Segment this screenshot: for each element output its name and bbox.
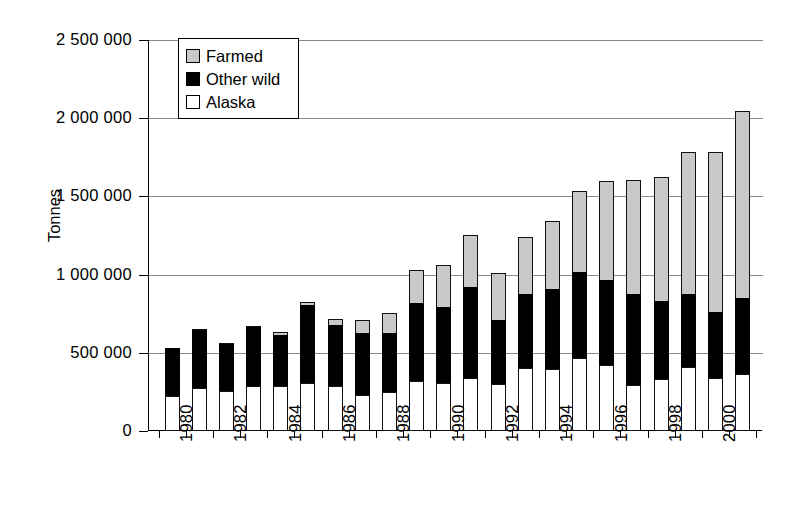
bar-segment-farmed: [735, 111, 750, 299]
bar-segment-wild: [491, 320, 506, 385]
bar-segment-wild: [681, 294, 696, 368]
y-axis-tick-mark: [139, 275, 148, 276]
x-axis-tick-label: 1984: [286, 404, 305, 442]
bar-segment-wild: [300, 305, 315, 385]
y-axis-tick-label: 1 500 000: [0, 186, 132, 205]
y-axis-tick-mark: [139, 118, 148, 119]
x-axis-tick-mark: [702, 431, 703, 438]
gridline: [149, 353, 763, 354]
bar-1991: [463, 235, 478, 430]
x-axis-tick-label: 1980: [177, 404, 196, 442]
x-axis-tick-label: 1992: [503, 404, 522, 442]
legend-swatch-alaska-icon: [186, 95, 200, 109]
gridline: [149, 196, 763, 197]
x-axis-tick-mark: [159, 431, 160, 438]
y-axis-tick-label: 2 500 000: [0, 30, 132, 49]
bar-2000: [708, 152, 723, 431]
legend-label: Farmed: [206, 48, 263, 64]
gridline: [149, 275, 763, 276]
x-axis-tick-mark: [322, 431, 323, 438]
bar-2001: [735, 111, 750, 430]
x-axis-tick-label: 1990: [449, 404, 468, 442]
bar-segment-wild: [273, 335, 288, 387]
x-axis-tick-label: 1996: [612, 404, 631, 442]
bar-1994: [545, 221, 560, 430]
y-axis-title: Tonnes: [45, 156, 64, 276]
bar-segment-wild: [328, 325, 343, 388]
x-axis-tick-mark: [376, 431, 377, 438]
bar-segment-farmed: [382, 313, 397, 335]
bar-segment-wild: [165, 348, 180, 397]
legend-label: Alaska: [206, 94, 256, 110]
legend-swatch-wild-icon: [186, 72, 200, 86]
bar-segment-wild: [219, 344, 234, 392]
y-axis-tick-label: 500 000: [0, 343, 132, 362]
x-axis-tick-label: 1982: [231, 404, 250, 442]
bar-segment-wild: [708, 312, 723, 378]
bar-1999: [681, 152, 696, 430]
x-axis-tick-label: 1998: [666, 404, 685, 442]
x-axis-tick-label: 1994: [557, 404, 576, 442]
x-axis-tick-label: 1988: [394, 404, 413, 442]
bar-segment-farmed: [681, 152, 696, 294]
y-axis-tick-mark: [139, 40, 148, 41]
x-axis-tick-mark: [430, 431, 431, 438]
bar-segment-wild: [436, 307, 451, 384]
bar-segment-wild: [572, 272, 587, 359]
bar-segment-farmed: [409, 270, 424, 304]
y-axis-tick-label: 2 000 000: [0, 108, 132, 127]
bar-segment-farmed: [599, 181, 614, 280]
bar-segment-wild: [409, 303, 424, 382]
bar-1998: [654, 177, 669, 430]
x-axis-tick-mark: [267, 431, 268, 438]
bar-segment-wild: [246, 327, 261, 387]
bar-1995: [572, 191, 587, 430]
bar-segment-wild: [545, 289, 560, 370]
bar-segment-farmed: [463, 235, 478, 287]
bar-segment-wild: [192, 330, 207, 389]
bar-segment-farmed: [355, 320, 370, 333]
bar-1996: [599, 181, 614, 430]
x-axis-tick-mark: [485, 431, 486, 438]
x-axis-tick-mark: [213, 431, 214, 438]
y-axis-tick-label: 1 000 000: [0, 265, 132, 284]
chart-legend: FarmedOther wildAlaska: [178, 38, 299, 119]
y-axis-tick-label: 0: [0, 421, 132, 440]
x-axis-tick-mark: [648, 431, 649, 438]
bar-1997: [626, 180, 641, 430]
x-axis-tick-label: 1986: [340, 404, 359, 442]
bar-1993: [518, 237, 533, 430]
x-axis-tick-label: 2000: [720, 404, 739, 442]
bar-segment-farmed: [654, 177, 669, 302]
bar-segment-wild: [735, 298, 750, 375]
bar-segment-wild: [626, 294, 641, 385]
y-axis-tick-mark: [139, 353, 148, 354]
bar-segment-wild: [463, 287, 478, 379]
bar-segment-farmed: [708, 152, 723, 314]
bar-segment-wild: [518, 294, 533, 370]
bar-segment-farmed: [626, 180, 641, 296]
bar-segment-farmed: [436, 265, 451, 308]
bar-segment-farmed: [545, 221, 560, 290]
legend-label: Other wild: [206, 71, 280, 87]
bar-segment-farmed: [572, 191, 587, 274]
legend-item-wild: Other wild: [186, 67, 298, 90]
x-axis-tick-mark: [539, 431, 540, 438]
y-axis-tick-mark: [139, 196, 148, 197]
legend-swatch-farmed-icon: [186, 49, 200, 63]
legend-item-alaska: Alaska: [186, 90, 298, 113]
bar-segment-wild: [599, 280, 614, 367]
chart-container: Tonnes 0500 0001 000 0001 500 0002 000 0…: [0, 0, 787, 509]
bar-segment-wild: [355, 333, 370, 396]
bar-segment-farmed: [518, 237, 533, 295]
y-axis-tick-mark: [139, 431, 148, 432]
bar-segment-wild: [382, 333, 397, 392]
bar-segment-farmed: [491, 273, 506, 321]
x-axis-tick-mark: [593, 431, 594, 438]
legend-item-farmed: Farmed: [186, 44, 298, 67]
x-axis-tick-mark: [756, 431, 757, 438]
bar-segment-wild: [654, 301, 669, 381]
